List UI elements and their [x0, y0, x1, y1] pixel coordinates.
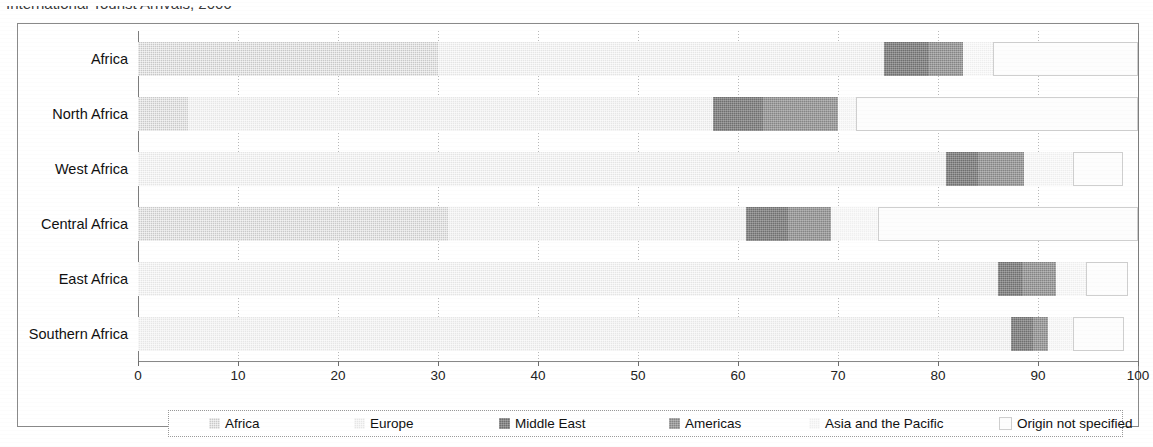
- x-tick-100: [1138, 361, 1139, 366]
- x-tick-label-50: 50: [630, 368, 645, 383]
- x-tick-label-70: 70: [830, 368, 845, 383]
- x-tick-20: [338, 361, 339, 366]
- gridline-40: [538, 31, 539, 361]
- gridline-0: [138, 31, 139, 361]
- bar-segment: [1056, 262, 1086, 296]
- bar-segment: [1086, 262, 1128, 296]
- x-tick-label-10: 10: [230, 368, 245, 383]
- x-tick-70: [838, 361, 839, 366]
- stacked-bar: [138, 207, 1138, 241]
- swatch-americas-icon: [669, 418, 680, 429]
- stacked-bar: [138, 262, 1138, 296]
- gridline-90: [1038, 31, 1039, 361]
- bar-row: Central Africa: [138, 207, 1138, 241]
- swatch-europe-icon: [354, 418, 365, 429]
- bar-segment: [188, 97, 713, 131]
- bar-category-label: Southern Africa: [29, 326, 134, 342]
- bar-segment: [978, 152, 1024, 186]
- x-axis: 0102030405060708090100: [138, 361, 1138, 387]
- x-tick-40: [538, 361, 539, 366]
- plot-area: AfricaNorth AfricaWest AfricaCentral Afr…: [138, 31, 1138, 361]
- legend-item-origin-not-specified[interactable]: Origin not specified: [999, 416, 1133, 431]
- gridline-50: [638, 31, 639, 361]
- x-tick-label-80: 80: [930, 368, 945, 383]
- bar-category-label: Central Africa: [41, 216, 134, 232]
- legend-label: Europe: [370, 416, 414, 431]
- swatch-middle-east-icon: [499, 418, 510, 429]
- swatch-origin-not-specified-icon: [999, 417, 1012, 430]
- bar-segment: [1011, 317, 1033, 351]
- bar-category-label: East Africa: [59, 271, 134, 287]
- swatch-asia-pacific-icon: [809, 418, 820, 429]
- bar-segment: [138, 317, 1011, 351]
- bar-segment: [138, 207, 448, 241]
- chart-frame: AfricaNorth AfricaWest AfricaCentral Afr…: [17, 23, 1139, 427]
- x-tick-60: [738, 361, 739, 366]
- legend-label: Asia and the Pacific: [825, 416, 944, 431]
- gridline-20: [338, 31, 339, 361]
- bar-row: Africa: [138, 42, 1138, 76]
- x-tick-30: [438, 361, 439, 366]
- bar-segment: [1048, 317, 1073, 351]
- legend-item-africa[interactable]: Africa: [209, 416, 260, 431]
- title-right-mark: [1025, 0, 1145, 8]
- page-title: International Tourist Arrivals, 2006: [6, 0, 706, 17]
- bar-category-label: North Africa: [52, 106, 134, 122]
- stacked-bar: [138, 317, 1138, 351]
- bar-row: Southern Africa: [138, 317, 1138, 351]
- legend-item-europe[interactable]: Europe: [354, 416, 414, 431]
- bar-row: North Africa: [138, 97, 1138, 131]
- x-tick-label-30: 30: [430, 368, 445, 383]
- bar-segment: [838, 97, 856, 131]
- stacked-bar: [138, 42, 1138, 76]
- gridline-80: [938, 31, 939, 361]
- x-tick-label-20: 20: [330, 368, 345, 383]
- bar-segment: [438, 42, 884, 76]
- bar-segment: [831, 207, 878, 241]
- bar-segment: [788, 207, 831, 241]
- bar-category-label: Africa: [91, 51, 134, 67]
- bar-segment: [448, 207, 746, 241]
- bar-segment: [746, 207, 788, 241]
- x-tick-label-90: 90: [1030, 368, 1045, 383]
- chart-legend: AfricaEuropeMiddle EastAmericasAsia and …: [168, 410, 1123, 437]
- legend-label: Africa: [225, 416, 260, 431]
- x-tick-label-40: 40: [530, 368, 545, 383]
- bar-segment: [138, 97, 188, 131]
- gridline-10: [238, 31, 239, 361]
- bar-row: West Africa: [138, 152, 1138, 186]
- bar-segment: [856, 97, 1138, 131]
- bar-segment: [138, 262, 998, 296]
- bar-category-label: West Africa: [55, 161, 134, 177]
- bar-segment: [138, 152, 946, 186]
- legend-item-asia-and-the-pacific[interactable]: Asia and the Pacific: [809, 416, 944, 431]
- bar-segment: [1023, 262, 1056, 296]
- swatch-africa-icon: [209, 418, 220, 429]
- legend-label: Origin not specified: [1017, 416, 1133, 431]
- bar-segment: [993, 42, 1138, 76]
- bar-segment: [963, 42, 993, 76]
- bar-segment: [1073, 152, 1123, 186]
- bar-segment: [138, 42, 438, 76]
- bar-segment: [884, 42, 929, 76]
- bar-segment: [1024, 152, 1073, 186]
- x-tick-80: [938, 361, 939, 366]
- legend-item-americas[interactable]: Americas: [669, 416, 741, 431]
- x-tick-50: [638, 361, 639, 366]
- bar-segment: [998, 262, 1023, 296]
- gridline-100: [1138, 31, 1139, 361]
- bar-row: East Africa: [138, 262, 1138, 296]
- stacked-bar: [138, 152, 1138, 186]
- x-tick-10: [238, 361, 239, 366]
- stacked-bar: [138, 97, 1138, 131]
- legend-label: Americas: [685, 416, 741, 431]
- x-tick-label-100: 100: [1127, 368, 1150, 383]
- gridline-30: [438, 31, 439, 361]
- bar-segment: [1073, 317, 1124, 351]
- legend-item-middle-east[interactable]: Middle East: [499, 416, 586, 431]
- gridline-60: [738, 31, 739, 361]
- bar-segment: [929, 42, 963, 76]
- x-tick-90: [1038, 361, 1039, 366]
- bar-segment: [713, 97, 763, 131]
- bar-segment: [946, 152, 978, 186]
